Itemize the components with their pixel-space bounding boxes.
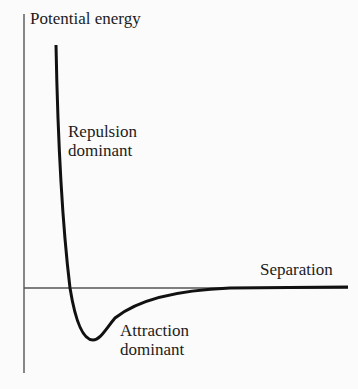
x-axis-label: Separation — [260, 260, 333, 279]
y-axis-label: Potential energy — [30, 9, 141, 28]
potential-energy-diagram: Potential energy Repulsion dominant Attr… — [0, 0, 358, 389]
repulsion-region-label: Repulsion dominant — [68, 122, 137, 160]
repulsion-line2: dominant — [68, 141, 137, 160]
attraction-line2: dominant — [120, 340, 189, 359]
repulsion-line1: Repulsion — [68, 122, 137, 141]
potential-curve — [56, 45, 348, 340]
attraction-region-label: Attraction dominant — [120, 321, 189, 359]
attraction-line1: Attraction — [120, 321, 189, 340]
